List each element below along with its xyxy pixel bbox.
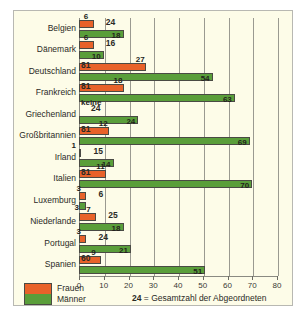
x-tick: [104, 276, 105, 280]
bar-total-label: 24: [91, 103, 100, 113]
x-tick: [153, 276, 154, 280]
bar-row: Deutschland275481: [14, 61, 292, 83]
legend-swatch-men: [25, 294, 51, 304]
bar-total-label: 24: [98, 232, 107, 242]
bar-value-men: 51: [193, 267, 202, 276]
bar-total-label: 16: [106, 38, 115, 48]
chart-legend: Frauen Männer 24 = Gesamtzahl der Abgeor…: [24, 283, 284, 309]
bar-row: Griechenlandkeine2424: [14, 104, 292, 126]
bar-row: Irland11415: [14, 147, 292, 169]
bar-men: [79, 94, 235, 102]
category-label: Deutschland: [14, 66, 76, 76]
bar-row: Luxemburg336: [14, 190, 292, 212]
category-label: Luxemburg: [14, 195, 76, 205]
legend-note-value: 24: [132, 293, 141, 303]
bar-value-men: 24: [126, 117, 135, 126]
category-label: Portugal: [14, 238, 76, 248]
bar-row: Großbritannien126981: [14, 126, 292, 148]
x-tick: [79, 276, 80, 280]
bar-women: [79, 41, 94, 49]
bar-total-label: 81: [81, 60, 90, 70]
bar-total-label: 60: [81, 253, 90, 263]
x-tick: [178, 276, 179, 280]
legend-labels: Frauen Männer: [57, 283, 86, 305]
bar-row: Niederlande71825: [14, 212, 292, 234]
category-label: Spanien: [14, 259, 76, 269]
legend-label-women: Frauen: [57, 283, 86, 294]
x-tick: [252, 276, 253, 280]
x-tick: [203, 276, 204, 280]
bar-total-label: 25: [108, 210, 117, 220]
bar-value-women: 27: [136, 55, 145, 64]
x-tick: [228, 276, 229, 280]
bar-men: [79, 73, 213, 81]
bar-total-label: 81: [81, 124, 90, 134]
bar-women: [79, 149, 81, 157]
legend-note-text: = Gesamtzahl der Abgeordneten: [144, 293, 267, 303]
bar-value-men: 21: [119, 246, 128, 255]
bar-value-women: 3: [76, 227, 80, 236]
bar-value-men: 18: [112, 224, 121, 233]
bar-total-label: 81: [81, 81, 90, 91]
bar-value-women: 11: [96, 162, 104, 171]
category-label: Italien: [14, 173, 76, 183]
category-label: Griechenland: [14, 109, 76, 119]
x-tick: [129, 276, 130, 280]
legend-swatch-box: [24, 283, 52, 305]
bar-row: Frankreich186381: [14, 83, 292, 105]
bar-total-label: 81: [81, 167, 90, 177]
bar-women: [79, 192, 86, 200]
category-label: Großbritannien: [14, 130, 76, 140]
bar-row: Spanien95160: [14, 255, 292, 277]
x-tick: [277, 276, 278, 280]
bar-total-label: 24: [106, 17, 115, 27]
category-label: Irland: [14, 152, 76, 162]
bar-value-men: 10: [92, 52, 101, 61]
legend-swatch-women: [25, 284, 51, 294]
bar-value-women: 3: [76, 184, 80, 193]
bar-women: [79, 235, 86, 243]
bar-women: [79, 20, 94, 28]
bar-value-men: 54: [201, 74, 210, 83]
bar-women: [79, 213, 96, 221]
chart-plot-wrapper: 01020304050607080 Belgien61824Dänemark61…: [14, 11, 292, 305]
bar-row: Dänemark61016: [14, 40, 292, 62]
bar-men: [79, 266, 205, 274]
bar-men: [79, 202, 86, 210]
bar-value-women: 6: [84, 12, 88, 21]
bar-total-label: 6: [98, 189, 103, 199]
bar-value-women: 7: [86, 205, 90, 214]
bar-value-women: 6: [84, 33, 88, 42]
bar-row: Portugal32124: [14, 233, 292, 255]
bar-row: Belgien61824: [14, 18, 292, 40]
bar-total-label: 15: [93, 146, 102, 156]
legend-note: 24 = Gesamtzahl der Abgeordneten: [132, 293, 266, 303]
category-label: Belgien: [14, 23, 76, 33]
bar-men: [79, 137, 250, 145]
bar-value-men: 63: [223, 95, 232, 104]
bar-value-women: 12: [99, 119, 108, 128]
category-label: Niederlande: [14, 216, 76, 226]
chart-root: 01020304050607080 Belgien61824Dänemark61…: [0, 0, 306, 316]
bar-value-women: 18: [114, 76, 123, 85]
legend-label-men: Männer: [57, 294, 86, 305]
bar-row: Italien117081: [14, 169, 292, 191]
category-label: Dänemark: [14, 44, 76, 54]
category-label: Frankreich: [14, 87, 76, 97]
bar-value-men: 70: [240, 181, 249, 190]
bar-value-women: 1: [71, 141, 75, 150]
bar-value-women: 9: [91, 248, 95, 257]
bar-men: [79, 180, 252, 188]
bar-value-men: 69: [238, 138, 247, 147]
bar-value-men: 3: [74, 203, 78, 212]
